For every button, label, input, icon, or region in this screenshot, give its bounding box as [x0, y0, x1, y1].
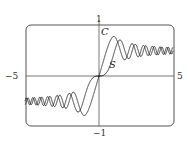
- curve-label-c: C: [101, 26, 109, 37]
- x-max-label: 5: [177, 71, 183, 81]
- fresnel-chart: 1 −1 −5 5 C S: [0, 0, 188, 141]
- curve-label-s: S: [109, 59, 116, 70]
- y-max-label: 1: [96, 14, 102, 24]
- x-min-label: −5: [5, 71, 19, 81]
- y-min-label: −1: [93, 128, 106, 138]
